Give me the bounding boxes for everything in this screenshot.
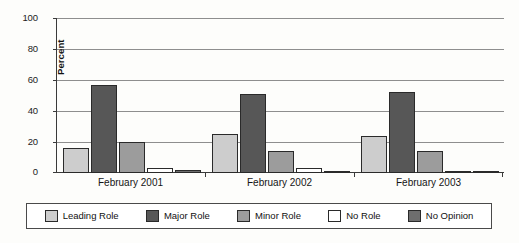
ytick-label-0: 0 [0,167,38,177]
ytick-label-80: 80 [0,44,38,54]
bar-chart-figure: 100 80 60 40 20 0 Percent [0,0,519,243]
bar-major-role-2003 [389,92,415,173]
xtick-mark-2 [354,173,355,177]
bar-leading-role-2002 [212,134,238,173]
legend-label-major-role: Major Role [164,211,210,221]
bar-no-role-2001 [147,168,173,173]
legend-item-major-role: Major Role [146,210,210,222]
bar-group-february-2001 [57,18,206,173]
legend-label-no-role: No Role [346,211,380,221]
ytick-label-40: 40 [0,106,38,116]
bar-major-role-2002 [240,94,266,173]
legend-swatch-leading-role [45,210,58,222]
bar-minor-role-2003 [417,151,443,173]
legend-item-no-role: No Role [328,210,380,222]
legend-item-no-opinion: No Opinion [408,210,474,222]
legend-label-minor-role: Minor Role [255,211,301,221]
legend-swatch-no-role [328,210,341,222]
xtick-mark-1 [205,173,206,177]
bar-leading-role-2003 [361,136,387,173]
xtick-label-february-2002: February 2002 [205,176,354,192]
bar-group-february-2002 [206,18,355,173]
legend-label-no-opinion: No Opinion [426,211,474,221]
xtick-label-february-2003: February 2003 [354,176,503,192]
legend-item-leading-role: Leading Role [45,210,119,222]
legend-label-leading-role: Leading Role [63,211,119,221]
ytick-label-20: 20 [0,137,38,147]
xtick-label-february-2001: February 2001 [56,176,205,192]
bar-no-role-2003 [445,171,471,173]
bar-no-opinion-2002 [324,171,350,173]
bar-major-role-2001 [91,85,117,173]
ytick-label-60: 60 [0,75,38,85]
bar-minor-role-2001 [119,142,145,173]
x-axis-labels: February 2001 February 2002 February 200… [56,176,503,192]
plot-area: 100 80 60 40 20 0 Percent [56,18,504,173]
bar-no-role-2002 [296,168,322,173]
chart-legend: Leading Role Major Role Minor Role No Ro… [26,203,492,229]
legend-item-minor-role: Minor Role [237,210,301,222]
legend-swatch-no-opinion [408,210,421,222]
xtick-mark-3 [502,173,503,177]
ytick-label-100: 100 [0,13,38,23]
legend-swatch-minor-role [237,210,250,222]
legend-swatch-major-role [146,210,159,222]
bar-group-february-2003 [355,18,504,173]
bar-no-opinion-2003 [473,171,499,173]
bar-leading-role-2001 [63,148,89,173]
bar-minor-role-2002 [268,151,294,173]
bar-no-opinion-2001 [175,170,201,173]
bars-layer [57,18,504,173]
